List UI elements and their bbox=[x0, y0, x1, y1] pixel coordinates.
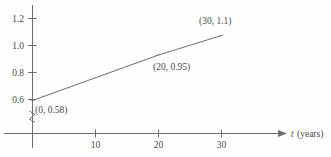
data-point-label-1: (20, 0.95) bbox=[153, 62, 190, 73]
data-point-label-0: (0, 0.58) bbox=[35, 105, 67, 116]
y-tick-label-0.8: 0.8 bbox=[12, 68, 24, 78]
chart-figure: 1.2 1.0 0.8 0.6 10 20 30 t (years) (0, 0… bbox=[0, 0, 331, 157]
x-tick-label-20: 20 bbox=[154, 140, 164, 150]
y-tick-label-0.6: 0.6 bbox=[12, 95, 24, 105]
x-tick-label-10: 10 bbox=[91, 140, 101, 150]
x-axis-title-symbol: t bbox=[291, 129, 294, 139]
y-tick-label-1.2: 1.2 bbox=[12, 14, 24, 24]
line-chart-svg: 1.2 1.0 0.8 0.6 10 20 30 t (years) (0, 0… bbox=[0, 0, 331, 157]
x-axis-title-unit: (years) bbox=[297, 129, 323, 140]
data-series-line bbox=[33, 36, 222, 101]
data-point-label-2: (30, 1.1) bbox=[199, 16, 231, 27]
x-tick-label-30: 30 bbox=[217, 140, 227, 150]
x-axis-arrow-icon bbox=[278, 130, 287, 137]
y-tick-label-1.0: 1.0 bbox=[12, 41, 24, 51]
